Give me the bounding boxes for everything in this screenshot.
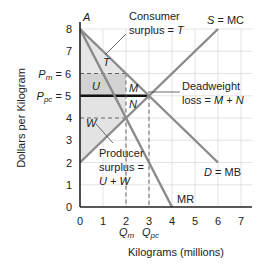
demand-label: D = MB (204, 166, 241, 178)
producer-surplus-label-2: surplus = (99, 161, 144, 173)
consumer-surplus-label: Consumer (129, 10, 180, 22)
y-tick-label: 7 (66, 45, 72, 57)
x-axis-title: Kilograms (millions) (128, 246, 224, 258)
x-tick-label: 0 (77, 215, 83, 227)
consumer-surplus-label-2: surplus = T (129, 24, 185, 36)
y-tick-label: 0 (66, 201, 72, 213)
point-a-label: A (82, 11, 90, 23)
region-u-label: U (92, 80, 100, 92)
deadweight-label: Deadweight (182, 80, 240, 92)
region-m-label: M (129, 82, 139, 94)
y-tick-label: 3 (66, 134, 72, 146)
qpc-label: Qpc (142, 226, 159, 240)
consumer-surplus-pointer (105, 34, 126, 55)
x-tick-label: 1 (100, 215, 106, 227)
producer-surplus-label: Producer (99, 147, 144, 159)
x-tick-label: 7 (238, 215, 244, 227)
x-tick-label: 6 (215, 215, 221, 227)
monopoly-welfare-chart: 012345670123478 Dollars per Kilogram Kil… (0, 0, 266, 267)
region-n-label: N (129, 98, 137, 110)
pm-label: Pm = 6 (38, 68, 71, 82)
x-tick-label: 4 (169, 215, 175, 227)
x-tick-label: 5 (192, 215, 198, 227)
mr-label: MR (177, 193, 194, 205)
y-axis-title: Dollars per Kilogram (15, 68, 27, 168)
region-w-label: W (86, 117, 98, 129)
ppc-label: Ppc = 5 (37, 90, 71, 104)
region-u (80, 74, 126, 96)
y-tick-label: 1 (66, 179, 72, 191)
supply-label: S = MC (207, 14, 244, 26)
y-tick-label: 2 (66, 157, 72, 169)
y-tick-label: 8 (66, 23, 72, 35)
deadweight-label-2: loss = M + N (182, 94, 244, 106)
qm-label: Qm (119, 226, 135, 240)
y-tick-label: 4 (66, 112, 72, 124)
producer-surplus-label-3: U + W (99, 175, 131, 187)
